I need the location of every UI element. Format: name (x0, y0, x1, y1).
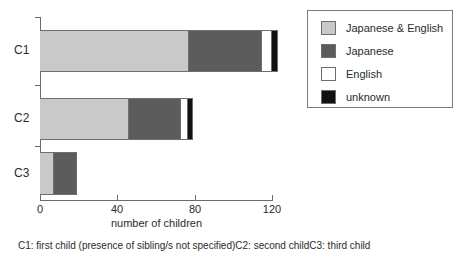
bar-segment-c2-japanese-english (40, 98, 129, 140)
chart-container: C1 C2 C3 0 40 80 120 number of children … (0, 0, 464, 263)
legend-swatch-japanese-and-english (321, 21, 336, 35)
bar-segment-c2-english (181, 98, 188, 140)
bar-segment-c1-japanese-english (40, 30, 189, 72)
legend-item-japanese-and-english: Japanese & English (321, 21, 443, 35)
x-axis-title: number of children (40, 217, 273, 230)
bar-segment-c1-english (262, 30, 272, 72)
x-tick-label-120: 120 (263, 203, 281, 215)
legend-swatch-unknown (321, 90, 336, 104)
footnote: C1: first child (presence of sibling/s n… (18, 240, 370, 252)
bar-segment-c2-japanese (129, 98, 181, 140)
bar-segment-c3-japanese-english (40, 152, 54, 195)
bar-segment-c1-unknown (272, 30, 278, 72)
legend-item-english: English (321, 67, 382, 81)
y-tick-label-c1: C1 (14, 44, 29, 57)
footnote-c3: C3: third child (309, 240, 370, 251)
x-tick-120 (272, 195, 273, 201)
bar-c3 (40, 152, 77, 195)
legend-label-japanese: Japanese (346, 45, 394, 57)
footnote-c2: C2: second child (235, 240, 309, 251)
bar-segment-c3-japanese (54, 152, 77, 195)
legend-item-unknown: unknown (321, 90, 390, 104)
x-tick-40 (117, 195, 118, 201)
y-tick-label-c2: C2 (14, 112, 29, 125)
bar-segment-c1-japanese (189, 30, 262, 72)
bar-c1 (40, 30, 278, 72)
legend: Japanese & English Japanese English unkn… (307, 10, 453, 108)
x-tick-label-40: 40 (111, 203, 123, 215)
x-tick-0 (40, 195, 41, 201)
x-tick-80 (195, 195, 196, 201)
y-tick-label-c3: C3 (14, 167, 29, 180)
footnote-c1: C1: first child (presence of sibling/s n… (18, 240, 235, 251)
legend-swatch-english (321, 67, 336, 81)
legend-swatch-japanese (321, 44, 336, 58)
y-tick-c1c2 (35, 85, 41, 86)
x-tick-label-0: 0 (37, 203, 43, 215)
legend-label-unknown: unknown (346, 91, 390, 103)
x-tick-label-80: 80 (189, 203, 201, 215)
y-tick-c2c3 (35, 146, 41, 147)
legend-label-japanese-and-english: Japanese & English (346, 22, 443, 34)
y-tick-top (35, 17, 41, 18)
legend-item-japanese: Japanese (321, 44, 394, 58)
bar-c2 (40, 98, 193, 140)
legend-label-english: English (346, 68, 382, 80)
bar-segment-c2-unknown (188, 98, 193, 140)
x-axis-line (40, 200, 273, 201)
